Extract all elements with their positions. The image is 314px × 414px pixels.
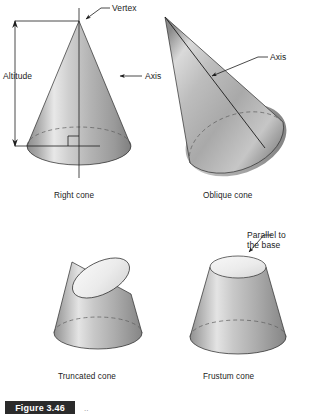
vertex-leader-line (86, 8, 101, 19)
frustum-cone-figure (190, 235, 286, 354)
figure-container: Vertex Altitude Axis Axis Parallel to th… (0, 0, 314, 414)
axis-label-oblique-cone: Axis (270, 52, 286, 62)
frustum-cone-top-face (210, 256, 266, 278)
caption-oblique-cone: Oblique cone (203, 191, 252, 201)
parallel-to-base-line2: the base (247, 240, 280, 250)
frustum-cone-lateral-surface (190, 267, 286, 354)
axis-label-right-cone: Axis (145, 71, 161, 81)
right-cone-figure (12, 8, 142, 178)
oblique-cone-figure (165, 17, 296, 189)
figure-caption-suffix: .. (84, 404, 88, 413)
parallel-to-base-line1: Parallel to (247, 230, 286, 240)
truncated-cone-figure (54, 250, 142, 349)
caption-truncated-cone: Truncated cone (58, 372, 116, 382)
cone-diagram-svg (0, 0, 314, 414)
vertex-label: Vertex (112, 3, 137, 13)
caption-right-cone: Right cone (54, 191, 94, 201)
altitude-label: Altitude (3, 71, 32, 81)
parallel-to-base-label: Parallel to the base (247, 230, 305, 250)
figure-number-badge: Figure 3.46 (5, 401, 75, 414)
caption-frustum-cone: Frustum cone (203, 372, 254, 382)
